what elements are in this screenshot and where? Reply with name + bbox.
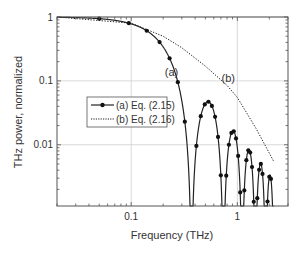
- series-a-marker: [234, 136, 238, 140]
- series-a-marker: [236, 154, 240, 158]
- series-a-marker: [244, 158, 248, 162]
- series-a-marker: [206, 100, 210, 104]
- series-a-marker: [265, 199, 269, 203]
- series-a-marker: [216, 135, 220, 139]
- series-a-marker: [183, 120, 187, 124]
- x-tick-label: 0.1: [124, 211, 138, 222]
- series-a-marker: [260, 172, 264, 176]
- series-b-dotted-line: [57, 17, 274, 161]
- series-a-marker: [242, 188, 246, 192]
- series-a-marker: [257, 168, 261, 172]
- annotation-label: (b): [221, 72, 234, 84]
- series-a-marker: [219, 173, 223, 177]
- y-tick-label: 0.1: [39, 75, 53, 86]
- annotation-label: (a): [165, 66, 178, 78]
- series-a-marker: [255, 196, 259, 200]
- x-tick-label: 1: [235, 211, 241, 222]
- series-a-marker: [203, 102, 207, 106]
- legend-b-label: (b) Eq. (2.16): [116, 114, 175, 125]
- legend-a-label: (a) Eq. (2.15): [116, 100, 175, 111]
- series-a-marker: [127, 21, 131, 25]
- series-a-marker: [157, 40, 161, 44]
- series-a-marker: [199, 114, 203, 118]
- legend-a-marker-icon: [100, 103, 104, 107]
- series-a-marker: [238, 190, 242, 194]
- y-tick-label: 1: [47, 12, 53, 23]
- chart: 0.1110.10.01 Frequency (THz) THz power, …: [0, 0, 301, 253]
- y-tick-label: 0.01: [34, 139, 54, 150]
- y-axis-label: THz power, normalized: [12, 56, 24, 169]
- series-a-marker: [194, 144, 198, 148]
- series-a-marker: [210, 104, 214, 108]
- series-a-marker: [224, 174, 228, 178]
- legend: (a) Eq. (2.15) (b) Eq. (2.16): [87, 97, 175, 127]
- series-a-marker: [269, 177, 273, 181]
- series-a-marker: [227, 143, 231, 147]
- series-a-marker: [250, 165, 254, 169]
- series-a-marker: [259, 162, 263, 166]
- series-a-marker: [167, 56, 171, 60]
- series-a-marker: [252, 200, 256, 204]
- series-a-marker: [213, 115, 217, 119]
- x-axis-label: Frequency (THz): [131, 229, 214, 241]
- series-a-marker: [176, 80, 180, 84]
- series-b-curve: [57, 17, 274, 161]
- curve-annotations: (a)(b): [165, 66, 235, 84]
- series-a-marker: [248, 150, 252, 154]
- series-a-marker: [145, 29, 149, 33]
- series-a-marker: [232, 129, 236, 133]
